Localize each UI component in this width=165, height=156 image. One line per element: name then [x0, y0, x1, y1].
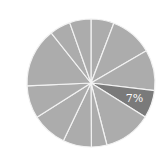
slice-percent-label: 7%	[126, 92, 143, 105]
pie-chart: 7%	[0, 0, 165, 156]
pie-slices	[27, 19, 155, 147]
pie-labels: 7%	[126, 92, 143, 105]
